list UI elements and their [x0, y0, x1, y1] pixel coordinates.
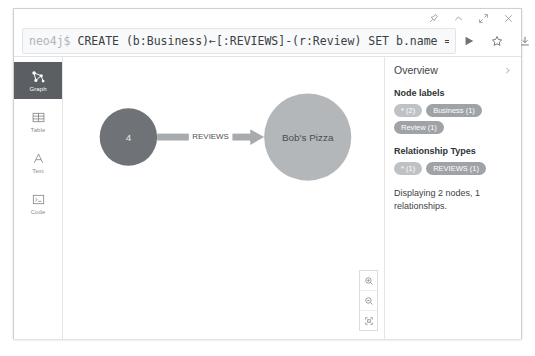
relationship-types-chips: * (1) REVIEWS (1) [394, 162, 512, 175]
pin-icon[interactable] [427, 12, 440, 25]
node-label-chip[interactable]: Review (1) [394, 121, 444, 134]
relationship-caption: REVIEWS [192, 132, 228, 141]
zoom-in-icon[interactable] [360, 271, 377, 291]
node-labels-heading: Node labels [394, 88, 512, 98]
window-controls [427, 12, 515, 25]
query-editor: neo4j$ CREATE (b:Business)←[:REVIEWS]-(r… [22, 28, 515, 54]
rail-item-graph-label: Graph [29, 86, 46, 93]
overview-header: Overview [394, 64, 512, 76]
graph-node-business[interactable]: Bob's Pizza [264, 93, 351, 180]
result-summary: Displaying 2 nodes, 1 relationships. [394, 187, 512, 213]
result-frame: neo4j$ CREATE (b:Business)←[:REVIEWS]-(r… [13, 8, 522, 339]
query-text: CREATE (b:Business)←[:REVIEWS]-(r:Review… [77, 34, 449, 48]
graph-visualization: REVIEWS 4 Bob's Pizza [63, 57, 384, 339]
collapse-icon[interactable] [452, 12, 465, 25]
graph-node-caption: Bob's Pizza [282, 132, 334, 143]
relationship-type-chip[interactable]: REVIEWS (1) [426, 162, 486, 175]
favorite-star-icon[interactable] [490, 34, 504, 48]
rail-item-text[interactable]: Text [14, 144, 62, 181]
rail-item-text-label: Text [32, 168, 43, 175]
node-labels-chips: * (2) Business (1) Review (1) [394, 104, 512, 134]
graph-node-caption: 4 [126, 132, 132, 143]
rail-item-table[interactable]: Table [14, 103, 62, 140]
code-icon [30, 191, 47, 208]
rail-item-code[interactable]: Code [14, 185, 62, 222]
expand-icon[interactable] [477, 12, 490, 25]
editor-actions [462, 28, 532, 54]
relationship-types-heading: Relationship Types [394, 146, 512, 156]
neo4j-browser-screen: neo4j$ CREATE (b:Business)←[:REVIEWS]-(r… [0, 0, 535, 356]
graph-icon [30, 68, 47, 85]
zoom-fit-icon[interactable] [360, 311, 377, 330]
overview-sidebar: Overview Node labels * (2) Business (1) … [384, 57, 521, 339]
rail-item-code-label: Code [31, 209, 46, 216]
node-label-chip[interactable]: Business (1) [426, 104, 482, 117]
rail-item-graph[interactable]: Graph [14, 62, 62, 99]
rail-item-table-label: Table [31, 127, 46, 134]
query-input[interactable]: neo4j$ CREATE (b:Business)←[:REVIEWS]-(r… [22, 28, 456, 54]
zoom-out-icon[interactable] [360, 291, 377, 311]
graph-canvas[interactable]: REVIEWS 4 Bob's Pizza [63, 57, 384, 339]
run-query-icon[interactable] [462, 34, 476, 48]
query-prompt: neo4j$ [29, 34, 77, 48]
zoom-controls [359, 270, 378, 331]
overview-title: Overview [394, 64, 438, 76]
close-icon[interactable] [502, 12, 515, 25]
node-label-chip[interactable]: * (2) [394, 104, 422, 117]
text-icon [30, 150, 47, 167]
relationship-type-chip[interactable]: * (1) [394, 162, 422, 175]
table-icon [30, 109, 47, 126]
frame-titlebar [14, 9, 521, 29]
graph-node-review[interactable]: 4 [100, 108, 157, 165]
chevron-right-icon[interactable] [502, 65, 512, 75]
relationship-reviews[interactable]: REVIEWS [157, 129, 264, 145]
download-icon[interactable] [518, 34, 532, 48]
frame-body: Graph Table [14, 56, 521, 339]
view-rail: Graph Table [14, 57, 63, 339]
